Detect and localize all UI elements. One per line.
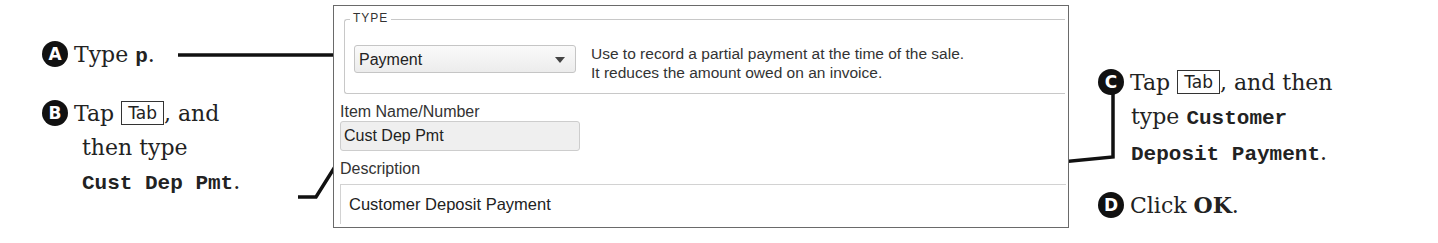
item-name-value: Cust Dep Pmt [344,127,444,145]
badge-c: C [1098,69,1124,95]
badge-b: B [42,100,68,126]
item-name-label: Item Name/Number [340,103,480,121]
item-name-input[interactable]: Cust Dep Pmt [340,121,580,151]
step-b-text-2: , and [164,101,219,126]
type-description: Use to record a partial payment at the t… [591,44,964,82]
step-a: AType p. [42,38,155,74]
step-c-code-1: Customer [1186,107,1287,130]
step-c-line2: type [1131,104,1186,129]
step-c-period: . [1320,140,1327,165]
step-c-text: Tap [1130,70,1177,95]
type-legend: TYPE [350,11,391,25]
type-dropdown-value: Payment [359,51,422,69]
step-b-code: Cust Dep Pmt [82,172,233,195]
step-d-period: . [1232,193,1239,218]
tab-key: Tab [121,101,164,125]
badge-d: D [1098,192,1124,218]
type-dropdown[interactable]: Payment [354,45,576,73]
step-b-period: . [233,169,240,194]
step-a-text: Type [74,42,135,67]
type-description-line1: Use to record a partial payment at the t… [591,44,964,63]
description-label: Description [340,160,420,178]
step-d-text: Click [1130,193,1194,218]
description-value: Customer Deposit Payment [349,195,551,214]
step-b-text: Tap [74,101,121,126]
new-item-dialog: TYPE Payment Use to record a partial pay… [333,5,1069,228]
tab-key: Tab [1177,70,1220,94]
badge-a: A [42,41,68,67]
chevron-down-icon[interactable] [555,57,565,63]
step-b-line2: then type [42,131,240,165]
step-d: DClick OK. [1098,188,1239,223]
description-input[interactable]: Customer Deposit Payment [340,184,1066,224]
step-a-period: . [148,42,155,67]
step-d-ok: OK [1194,192,1232,218]
step-a-code: p [135,45,148,68]
step-c-code-2: Deposit Payment [1131,143,1320,166]
step-c-text-2: , and then [1220,70,1333,95]
step-c: CTap Tab, and then type Customer Deposit… [1098,66,1333,172]
step-b: BTap Tab, and then type Cust Dep Pmt. [42,97,240,201]
type-description-line2: It reduces the amount owed on an invoice… [591,63,964,82]
